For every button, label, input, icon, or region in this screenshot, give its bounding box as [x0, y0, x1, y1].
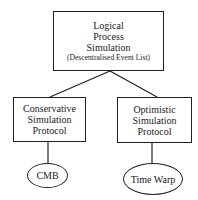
- root-line-1: Logical: [93, 20, 124, 31]
- optimistic-line-1: Optimistic: [133, 104, 175, 115]
- conservative-line-2: Simulation: [28, 114, 72, 125]
- edge-root-to-optimistic: [110, 71, 157, 97]
- root-line-3: Simulation: [87, 42, 131, 53]
- node-conservative-simulation-protocol: Conservative Simulation Protocol: [13, 97, 86, 142]
- root-line-4: (Descentralised Event List): [67, 53, 150, 63]
- edge-root-to-conservative: [50, 71, 110, 97]
- leaf-cmb: CMB: [27, 163, 68, 188]
- optimistic-line-3: Protocol: [138, 126, 172, 137]
- time-warp-label: Time Warp: [131, 174, 175, 185]
- leaf-time-warp: Time Warp: [123, 163, 183, 195]
- node-optimistic-simulation-protocol: Optimistic Simulation Protocol: [117, 97, 192, 143]
- cmb-label: CMB: [36, 170, 58, 181]
- conservative-line-1: Conservative: [23, 103, 76, 114]
- optimistic-line-2: Simulation: [133, 115, 177, 126]
- root-line-2: Process: [93, 31, 124, 42]
- conservative-line-3: Protocol: [33, 125, 67, 136]
- root-node-logical-process-simulation: Logical Process Simulation (Descentralis…: [53, 11, 164, 71]
